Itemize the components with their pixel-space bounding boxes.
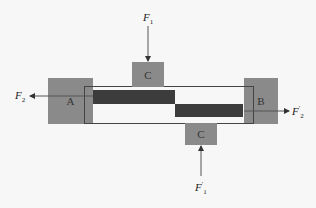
f1-prime-label: F′1 — [195, 180, 207, 196]
f1-label: F1 — [143, 11, 153, 26]
f2-label: F2 — [15, 89, 25, 104]
f2-prime-label: F′2 — [292, 104, 304, 120]
force-arrows — [0, 0, 316, 208]
force-diagram: A B C C F1 F′1 F2 F′2 — [0, 0, 316, 208]
